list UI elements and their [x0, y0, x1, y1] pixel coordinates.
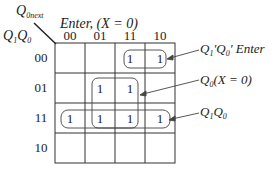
group-label-q0-x0: Q0(X = 0) [200, 72, 252, 89]
row-header: 00 [35, 50, 48, 65]
cell: 1 [157, 111, 164, 126]
row-var-label: Q1Q0 [3, 28, 31, 45]
kmap-diagram: Q0next Q1Q0 Enter, (X = 0) 00 01 11 10 0… [0, 0, 279, 170]
cell: 1 [127, 111, 134, 126]
cell: 1 [67, 111, 74, 126]
cell: 1 [157, 51, 164, 66]
group-label-q1q0-enter: Q1′Q0′ Enter [200, 41, 266, 58]
cell: 1 [127, 81, 134, 96]
col-header: 01 [94, 28, 107, 43]
col-header: 00 [64, 28, 77, 43]
corner-label: Q0next Q1Q0 [3, 3, 56, 45]
col-header: 10 [154, 28, 167, 43]
output-var-label: Q0next [16, 3, 44, 20]
row-header: 10 [35, 140, 48, 155]
group-label-q1q0: Q1Q0 [200, 104, 227, 121]
group-labels: Q1′Q0′ Enter Q0(X = 0) Q1Q0 [200, 41, 266, 121]
cell: 1 [97, 81, 104, 96]
corner-diagonal [34, 23, 56, 44]
row-headers: 00 01 11 10 [35, 50, 48, 155]
row-header: 01 [35, 80, 48, 95]
cell: 1 [97, 111, 104, 126]
cell: 1 [127, 51, 134, 66]
col-header: 11 [124, 28, 137, 43]
row-header: 11 [35, 110, 48, 125]
